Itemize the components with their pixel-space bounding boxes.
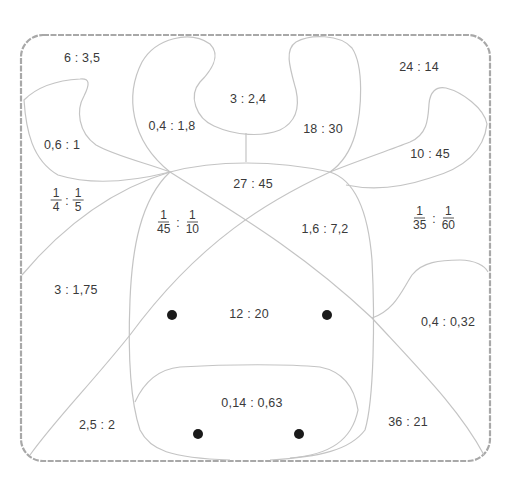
fraction-b: 1 5 [73,187,84,214]
ratio-label-between-horns: 3 : 2,4 [230,92,266,106]
numerator: 1 [443,205,454,219]
numerator: 1 [158,209,169,223]
ratio-label-face-center: 12 : 20 [229,307,269,321]
right-nostril-dot [294,429,304,439]
fraction-label-right-of-head: 1 35 : 1 60 [411,205,457,232]
fraction-label-left-face: 1 45 : 1 10 [155,209,201,236]
denominator: 35 [411,219,428,232]
fraction-a: 1 4 [51,187,62,214]
denominator: 60 [440,219,457,232]
right-side-bump [372,260,488,318]
numerator: 1 [73,187,84,201]
right-eye-dot [322,310,332,320]
denominator: 10 [184,223,201,236]
denominator: 4 [51,201,62,214]
ratio-label-top-left-corner: 6 : 3,5 [64,51,100,65]
ratio-label-bottom-left: 2,5 : 2 [79,418,115,432]
fraction-a: 1 45 [155,209,172,236]
numerator: 1 [187,209,198,223]
ratio-label-bottom-right: 36 : 21 [388,415,428,429]
left-nostril-dot [193,429,203,439]
fraction-a: 1 35 [411,205,428,232]
ratio-label-muzzle: 0,14 : 0,63 [221,396,282,410]
fraction-label-left-of-head: 1 4 : 1 5 [51,187,84,214]
fraction-b: 1 10 [184,209,201,236]
ratio-label-right-ear: 10 : 45 [410,147,450,161]
ratio-label-left-side: 3 : 1,75 [54,283,97,297]
ratio-label-forehead: 27 : 45 [233,177,273,191]
left-lower-curve [22,172,170,275]
muzzle-outline [135,365,358,458]
right-horn-outline [280,37,361,172]
numerator: 1 [51,187,62,201]
numerator: 1 [414,205,425,219]
ratio-label-right-side: 0,4 : 0,32 [421,315,475,329]
ratio-label-left-ear: 0,6 : 1 [44,138,80,152]
left-eye-dot [167,310,177,320]
ratio-label-cheek-upper: 1,6 : 7,2 [302,222,349,236]
denominator: 5 [73,201,84,214]
fraction-b: 1 60 [440,205,457,232]
ratio-label-right-horn: 18 : 30 [303,122,343,136]
ratio-label-left-horn: 0,4 : 1,8 [149,119,196,133]
ratio-separator: : [176,215,179,229]
ratio-separator: : [432,211,435,225]
right-ear-outline [330,88,487,188]
ratio-separator: : [65,193,68,207]
ratio-label-top-right-corner: 24 : 14 [399,60,439,74]
denominator: 45 [155,223,172,236]
